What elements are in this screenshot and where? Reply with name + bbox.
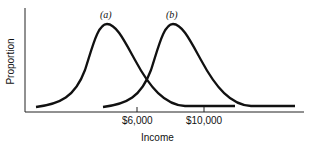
y-axis-label: Proportion bbox=[5, 32, 16, 92]
x-axis-label: Income bbox=[141, 132, 174, 143]
curve-b bbox=[103, 24, 295, 107]
tick-label-6000: $6,000 bbox=[122, 115, 153, 126]
tick-label-10000: $10,000 bbox=[186, 115, 222, 126]
curve-a-label: (a) bbox=[100, 9, 112, 20]
curve-b-label: (b) bbox=[166, 9, 178, 20]
chart-plot-area bbox=[0, 0, 310, 151]
